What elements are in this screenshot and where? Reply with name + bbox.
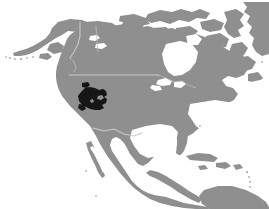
range-map-figure: North America Intermountain West range L… xyxy=(0,0,269,209)
north-america-map xyxy=(0,0,269,209)
